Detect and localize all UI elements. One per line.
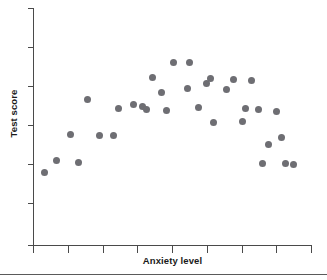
data-point <box>278 134 285 141</box>
x-axis-tick <box>33 246 34 253</box>
data-point <box>75 159 82 166</box>
data-point <box>143 106 150 113</box>
data-point <box>67 131 74 138</box>
x-axis-label: Anxiety level <box>33 255 312 266</box>
data-point <box>163 107 170 114</box>
x-axis-tick <box>311 246 312 253</box>
data-point <box>207 75 214 82</box>
x-axis-tick <box>242 246 243 253</box>
data-point <box>53 157 60 164</box>
x-axis-tick <box>276 246 277 253</box>
data-point <box>248 77 255 84</box>
data-point <box>130 101 137 108</box>
data-point <box>96 132 103 139</box>
data-point <box>184 85 191 92</box>
scatter-plot-figure: Test score Anxiety level <box>0 0 327 280</box>
data-point <box>195 104 202 111</box>
data-point <box>230 76 237 83</box>
data-point <box>110 132 117 139</box>
data-point <box>290 161 297 168</box>
data-point <box>115 105 122 112</box>
data-point <box>158 89 165 96</box>
data-point <box>84 96 91 103</box>
y-axis-label: Test score <box>8 74 19 154</box>
data-point <box>242 105 249 112</box>
data-point <box>223 86 230 93</box>
data-point <box>282 160 289 167</box>
data-point <box>210 119 217 126</box>
plot-area <box>33 8 312 245</box>
data-point <box>239 118 246 125</box>
data-point <box>265 141 272 148</box>
x-axis-tick <box>207 246 208 253</box>
data-point <box>149 74 156 81</box>
bottom-divider <box>0 274 327 275</box>
x-axis-tick <box>172 246 173 253</box>
data-point <box>170 59 177 66</box>
data-point <box>41 169 48 176</box>
data-point <box>255 106 262 113</box>
data-point <box>186 59 193 66</box>
x-axis-tick <box>103 246 104 253</box>
data-point <box>273 108 280 115</box>
x-axis-tick <box>137 246 138 253</box>
x-axis-tick <box>68 246 69 253</box>
data-point <box>259 160 266 167</box>
